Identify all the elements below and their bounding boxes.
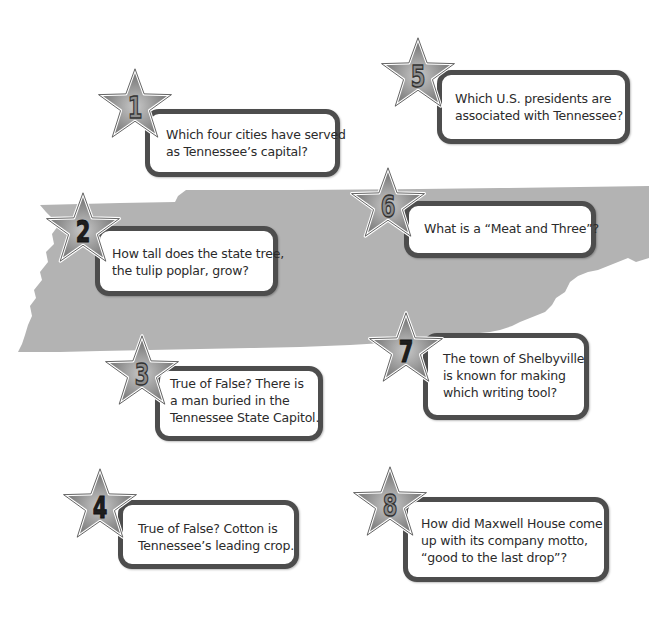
question-text-8: How did Maxwell House come up with its c… [421, 515, 603, 566]
star-badge-8: 8 [352, 464, 428, 538]
question-line: which writing tool? [443, 384, 584, 401]
question-number-1: 1 [108, 66, 161, 140]
question-number-3: 3 [115, 333, 168, 407]
star-badge-1: 1 [97, 66, 173, 140]
question-number-6: 6 [361, 165, 414, 239]
question-line: What is a “Meat and Three”? [424, 220, 599, 237]
question-line: a man buried in the [170, 392, 319, 409]
question-number-7: 7 [379, 310, 432, 384]
question-number-8: 8 [363, 464, 416, 538]
question-line: Tennessee State Capitol. [170, 409, 319, 426]
star-badge-2: 2 [45, 190, 121, 264]
question-text-7: The town of Shelbyville is known for mak… [443, 350, 584, 401]
star-badge-3: 3 [104, 333, 180, 407]
question-line: How tall does the state tree, [112, 245, 284, 262]
question-line: Which four cities have served [166, 126, 346, 143]
question-line: is known for making [443, 367, 584, 384]
star-badge-4: 4 [62, 466, 138, 540]
question-line: Tennessee’s leading crop. [138, 537, 294, 554]
question-line: the tulip poplar, grow? [112, 262, 284, 279]
question-text-3: True of False? There is a man buried in … [170, 375, 319, 426]
question-number-5: 5 [391, 35, 444, 109]
question-text-5: Which U.S. presidents are associated wit… [455, 90, 623, 124]
star-badge-5: 5 [380, 35, 456, 109]
question-text-2: How tall does the state tree, the tulip … [112, 245, 284, 279]
star-badge-7: 7 [368, 310, 444, 384]
question-line: True of False? Cotton is [138, 520, 294, 537]
question-line: up with its company motto, [421, 532, 603, 549]
question-text-4: True of False? Cotton is Tennessee’s lea… [138, 520, 294, 554]
question-line: Which U.S. presidents are [455, 90, 623, 107]
question-line: True of False? There is [170, 375, 319, 392]
question-number-2: 2 [56, 190, 109, 264]
question-number-4: 4 [73, 466, 126, 540]
question-line: The town of Shelbyville [443, 350, 584, 367]
star-badge-6: 6 [350, 165, 426, 239]
question-text-1: Which four cities have served as Tenness… [166, 126, 346, 160]
question-line: How did Maxwell House come [421, 515, 603, 532]
question-line: “good to the last drop”? [421, 549, 603, 566]
question-line: as Tennessee’s capital? [166, 143, 346, 160]
question-text-6: What is a “Meat and Three”? [424, 220, 599, 237]
question-line: associated with Tennessee? [455, 107, 623, 124]
